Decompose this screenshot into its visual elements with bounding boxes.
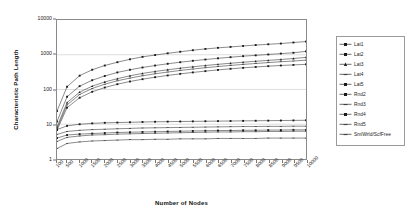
data-point [192,60,194,62]
data-point [255,138,257,139]
legend-marker-icon [339,120,352,128]
data-point [217,57,219,59]
data-point [104,140,106,141]
data-point [91,91,93,93]
data-point [179,127,181,128]
data-point [79,142,81,143]
data-point [255,131,257,132]
data-point [66,96,68,98]
data-point [292,138,294,139]
legend-item-lat2[interactable]: Lat2 [339,49,402,59]
data-point [154,139,156,140]
data-point [204,70,206,72]
data-point [267,43,269,45]
legend-item-label: Rnd3 [354,102,366,107]
y-axis-tick-label: 100 [43,87,52,92]
data-point [267,65,269,67]
data-point [167,52,169,54]
data-point [267,120,269,122]
data-point [91,88,93,89]
data-point [280,129,282,131]
data-point [255,66,257,68]
data-point [280,65,282,67]
data-point [66,105,68,106]
data-point [116,132,118,134]
data-point [154,127,156,128]
data-point [66,137,68,138]
data-point [79,130,81,131]
data-point [129,78,131,79]
data-point [267,62,269,63]
data-point [242,126,244,127]
data-point [192,127,194,128]
data-point [91,129,93,130]
data-point [129,69,131,71]
legend-item-label: Rnd2 [354,92,366,97]
data-point [154,73,156,74]
series-layer [57,20,306,159]
data-point [57,137,58,139]
y-axis: 110100100010000 [0,0,56,180]
data-point [242,120,244,122]
legend-item-label: Lat3 [354,62,364,67]
data-point [79,97,81,99]
data-point [167,63,169,65]
series-line [57,120,306,129]
data-point [305,131,306,132]
data-point [129,131,131,133]
data-point [217,130,219,132]
legend-item-label: SmlWrld/ScfFree [354,132,391,137]
data-point [104,84,106,85]
data-point [57,134,58,135]
legend-item-rnd4[interactable]: Rnd4 [339,109,402,119]
data-point [167,72,169,73]
data-point [255,44,257,46]
legend-item-label: Lat1 [354,42,364,47]
data-point [116,61,118,63]
data-point [292,61,294,62]
data-point [104,122,106,124]
legend-item-label: Lat5 [354,82,364,87]
data-point [230,46,232,48]
series-line [57,130,306,138]
data-point [116,140,118,141]
data-point [179,61,181,63]
data-point [79,75,81,77]
data-point [179,70,181,71]
data-point [204,127,206,128]
data-point [129,58,131,60]
legend-item-label: Lat4 [354,72,364,77]
data-point [57,121,58,123]
data-point [229,65,231,66]
data-point [141,133,143,134]
data-point [267,54,269,56]
series-line [57,51,306,121]
data-point [255,129,257,131]
data-point [104,132,106,134]
data-point [229,132,231,133]
data-point [142,131,144,133]
data-point [292,119,294,121]
data-point [204,67,206,68]
legend-item-rnd5[interactable]: Rnd5 [339,119,402,129]
data-point [154,76,156,78]
legend-item-lat4[interactable]: Lat4 [339,69,402,79]
data-point [79,94,81,95]
data-point [242,138,244,139]
series-line [57,57,306,126]
data-point [217,138,219,139]
data-point [242,55,244,57]
legend-item-rnd2[interactable]: Rnd2 [339,89,402,99]
legend-item-smlwrld-scffree[interactable]: SmlWrld/ScfFree [339,129,402,139]
data-point [217,69,219,71]
legend-marker-icon [339,50,352,58]
legend-item-lat1[interactable]: Lat1 [339,39,402,49]
data-point [242,45,244,47]
data-point [179,73,181,75]
data-point [104,134,106,135]
legend-item-rnd3[interactable]: Rnd3 [339,99,402,109]
data-point [116,134,118,135]
legend-item-lat5[interactable]: Lat5 [339,79,402,89]
data-point [192,130,194,132]
legend-item-lat3[interactable]: Lat3 [339,59,402,69]
